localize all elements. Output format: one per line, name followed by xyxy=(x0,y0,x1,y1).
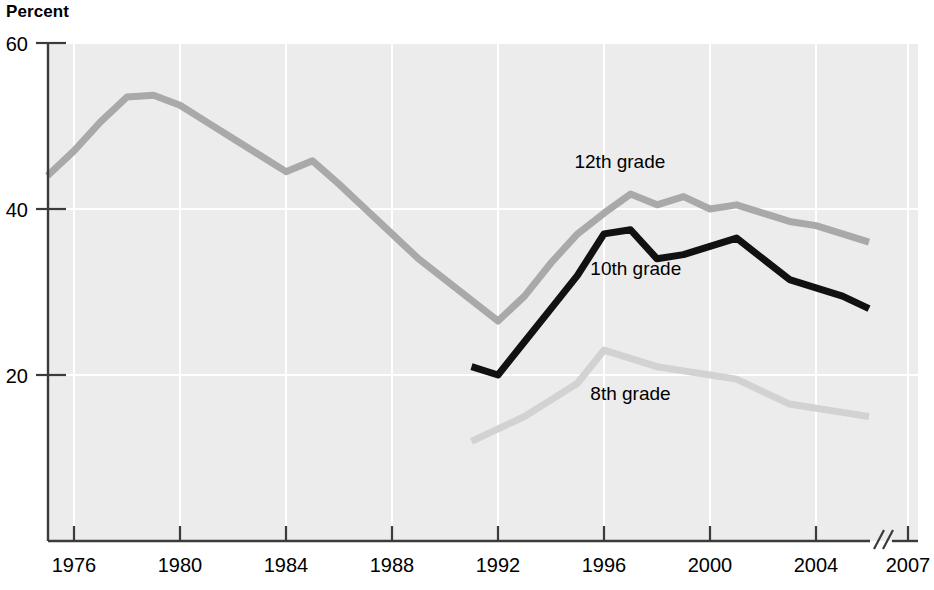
line-chart: 197619801984198819921996200020042007 204… xyxy=(0,0,934,590)
x-tick-label: 2000 xyxy=(688,554,733,576)
x-tick-label: 2004 xyxy=(794,554,839,576)
chart-figure: Percent 19761980198419881992199620002004… xyxy=(0,0,934,590)
y-tick-label: 60 xyxy=(6,33,28,55)
x-tick-label: 2007 xyxy=(886,554,931,576)
plot-area xyxy=(48,43,918,541)
x-tick-label: 1984 xyxy=(264,554,309,576)
series-label-8th-grade: 8th grade xyxy=(590,383,670,404)
x-tick-label: 1988 xyxy=(370,554,415,576)
x-tick-label: 1996 xyxy=(582,554,627,576)
y-tick-label: 20 xyxy=(6,365,28,387)
x-axis-tick-labels: 197619801984198819921996200020042007 xyxy=(52,554,931,576)
plot-background xyxy=(48,43,918,541)
x-tick-label: 1992 xyxy=(476,554,521,576)
x-tick-label: 1976 xyxy=(52,554,97,576)
series-label-12th-grade: 12th grade xyxy=(574,151,665,172)
series-label-10th-grade: 10th grade xyxy=(590,258,681,279)
y-axis-tick-labels: 204060 xyxy=(6,33,28,387)
x-tick-label: 1980 xyxy=(158,554,203,576)
y-tick-label: 40 xyxy=(6,199,28,221)
